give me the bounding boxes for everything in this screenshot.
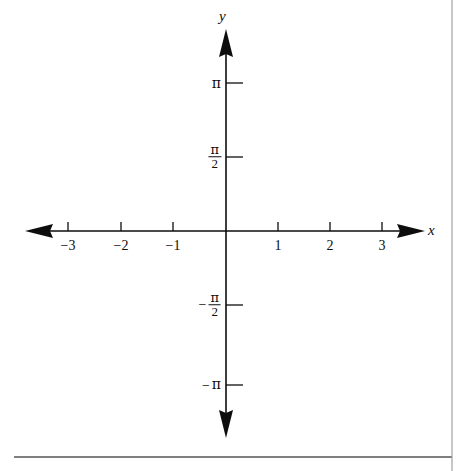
x-tick-label: 3 — [379, 238, 386, 254]
fraction-denominator: 2 — [208, 306, 221, 319]
x-tick-label: 1 — [275, 238, 282, 254]
axes-drawing — [0, 0, 462, 471]
x-tick-label: −3 — [61, 238, 76, 254]
y-tick-label-pi: π — [210, 75, 221, 92]
x-axis-right-arrowhead — [397, 224, 425, 238]
fraction: π 2 — [208, 143, 221, 171]
y-tick-numerator: π — [212, 376, 221, 392]
y-axis-label: y — [219, 8, 226, 25]
x-tick-label: −1 — [166, 238, 181, 254]
y-tick-label-pi-over-2: π 2 — [206, 143, 221, 171]
x-axis-label: x — [428, 222, 435, 239]
coordinate-plane-figure: y x −3 −2 −1 1 2 3 π π 2 − π 2 −π — [0, 0, 462, 471]
y-tick-sign: − — [199, 297, 209, 313]
fraction-numerator: π — [208, 291, 221, 305]
y-axis-ticks — [226, 83, 243, 385]
y-axis-top-arrowhead — [219, 29, 233, 57]
y-tick-numerator: π — [212, 75, 221, 91]
fraction: π 2 — [208, 291, 221, 319]
x-axis-ticks — [68, 222, 382, 231]
x-tick-label: 2 — [327, 238, 334, 254]
y-tick-sign: − — [202, 378, 212, 394]
y-tick-label-neg-pi-over-2: − π 2 — [199, 291, 221, 319]
fraction-denominator: 2 — [208, 158, 221, 171]
y-tick-label-neg-pi: −π — [202, 376, 221, 394]
y-axis-bottom-arrowhead — [219, 410, 233, 438]
x-tick-label: −2 — [114, 238, 129, 254]
fraction-numerator: π — [208, 143, 221, 157]
x-axis-left-arrowhead — [25, 224, 53, 238]
